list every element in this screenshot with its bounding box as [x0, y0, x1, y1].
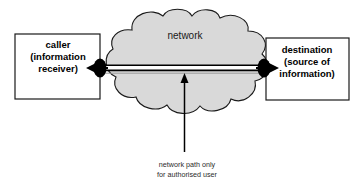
- connector-channel: [100, 66, 265, 71]
- destination-label-line3: information): [279, 68, 334, 79]
- destination-box: destination (source of information): [266, 38, 349, 100]
- cloud-shape: [106, 9, 267, 113]
- cloud-label: network: [167, 30, 203, 41]
- caller-label-line2: (information: [30, 51, 86, 62]
- caller-box: caller (information receiver): [15, 34, 100, 99]
- caption: network path only for authorised user: [157, 160, 218, 179]
- caller-label-line3: receiver): [38, 63, 78, 74]
- network-cloud: network: [106, 9, 267, 113]
- caller-label-line1: caller: [46, 39, 71, 50]
- caption-line2: for authorised user: [157, 170, 218, 179]
- destination-label-line1: destination: [282, 44, 333, 55]
- destination-label-line2: (source of: [284, 56, 331, 67]
- network-diagram: network caller (information receiver) de…: [0, 0, 358, 185]
- caption-line1: network path only: [159, 160, 216, 169]
